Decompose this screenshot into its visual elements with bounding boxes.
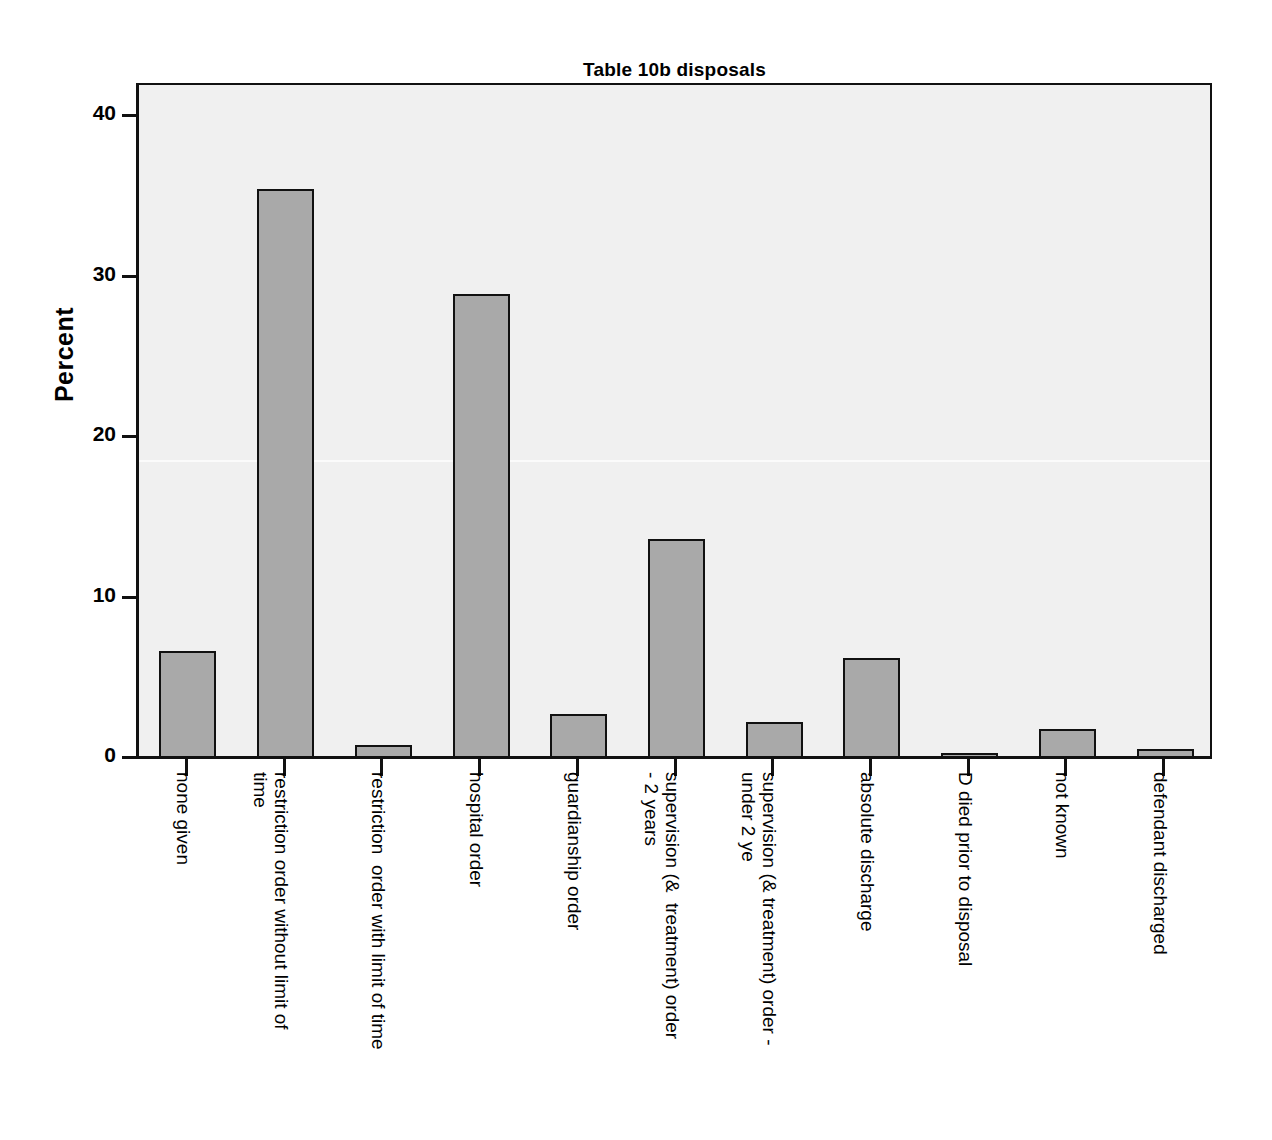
x-axis-tick-label: absolute discharge [857, 772, 878, 932]
x-axis-tick-label: defendant discharged [1150, 772, 1171, 955]
bar [159, 651, 216, 759]
y-axis-title: Percent [50, 275, 79, 435]
y-axis-tick [122, 435, 136, 438]
bar [453, 294, 510, 759]
x-axis-tick-label: D died prior to disposal [954, 772, 975, 966]
bar [843, 658, 900, 759]
x-axis-tick-label: supervision (& treatment) order - under … [738, 772, 781, 1046]
chart-title: Table 10b disposals [137, 59, 1212, 81]
y-axis-tick-label: 10 [56, 583, 116, 607]
bar [746, 722, 803, 759]
bar [1039, 729, 1096, 759]
x-axis-tick-label: restriction order with limit of time [368, 772, 389, 1050]
y-axis-line [136, 83, 139, 759]
bar-chart: Table 10b disposals 010203040 Percent no… [0, 0, 1272, 1140]
x-axis-tick-label: hospital order [466, 772, 487, 887]
plot-inner [139, 85, 1210, 757]
y-axis-tick [122, 114, 136, 117]
y-axis-tick [122, 596, 136, 599]
x-axis-tick-label: not known [1052, 772, 1073, 859]
x-axis-tick-label: restriction order without limit of time [249, 772, 292, 1030]
plot-area [137, 83, 1212, 757]
y-axis-tick-label: 40 [56, 101, 116, 125]
bar [550, 714, 607, 759]
x-axis-tick-label: none given [173, 772, 194, 865]
x-axis-tick-label: guardianship order [563, 772, 584, 930]
bar [648, 539, 705, 759]
y-axis-tick [122, 756, 136, 759]
bar [257, 189, 314, 759]
y-axis-tick-label: 0 [56, 743, 116, 767]
y-axis-tick [122, 275, 136, 278]
x-axis-tick-label: supervision (& treatment) order - 2 year… [640, 772, 683, 1039]
